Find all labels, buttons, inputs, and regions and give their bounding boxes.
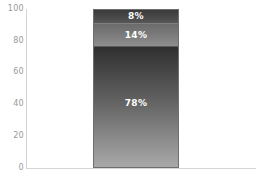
bar-segment-middle[interactable]: 14%: [94, 24, 178, 47]
y-axis-tick-20: 20: [0, 132, 24, 140]
y-axis-tick-40: 40: [0, 100, 24, 108]
bar-segment-bottom-label: 78%: [94, 98, 178, 108]
y-axis-tick-80: 80: [0, 37, 24, 45]
y-axis-tick-60: 60: [0, 68, 24, 76]
chart-title: [60, 0, 256, 3]
y-axis-tick-0: 0: [0, 164, 24, 172]
bar-segment-top-label: 8%: [128, 11, 144, 21]
bar-segment-top[interactable]: 8%: [94, 10, 178, 24]
plot-area: 8% 14% 78%: [27, 9, 256, 168]
bar-segment-bottom[interactable]: 78%: [94, 47, 178, 167]
stacked-bar-chart: 100 80 60 40 20 0 8% 14% 78%: [0, 0, 256, 175]
bar-segment-middle-label: 14%: [125, 30, 147, 40]
x-axis-line: [26, 168, 256, 169]
stacked-bar[interactable]: 8% 14% 78%: [93, 9, 179, 168]
y-axis-tick-100: 100: [0, 5, 24, 13]
